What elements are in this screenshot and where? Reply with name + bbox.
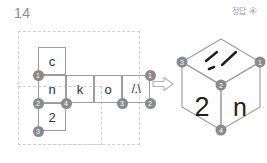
cube-left-face-label: 2: [194, 92, 209, 122]
net-vertex-2-right: 2: [145, 98, 156, 109]
cube-vertex-3-label: 3: [180, 59, 184, 66]
cube-top-face: [182, 39, 260, 85]
net-vertex-3-mid: 3: [117, 98, 128, 109]
net-vertex-4: 4: [61, 98, 72, 109]
question-figure: 14 정답④ c n k o /.\ 2 1 1 2 2 3 3 4: [0, 0, 267, 163]
net-vertex-2-left: 2: [33, 98, 44, 109]
cube-vertex-4-label: 4: [219, 127, 223, 134]
cube-right-face-label: n: [233, 93, 247, 121]
cube-vertex-2-label: 2: [219, 82, 223, 89]
cube-vertex-1-label: 1: [258, 59, 262, 66]
net-vertex-1-left: 1: [33, 70, 44, 81]
net-vertex-3-bottom: 3: [33, 126, 44, 137]
cube-top-face-glyph: [206, 52, 236, 69]
assembled-cube: 2 n 3 1 2 4: [176, 33, 266, 145]
transforms-into-arrow-icon: [152, 76, 174, 92]
